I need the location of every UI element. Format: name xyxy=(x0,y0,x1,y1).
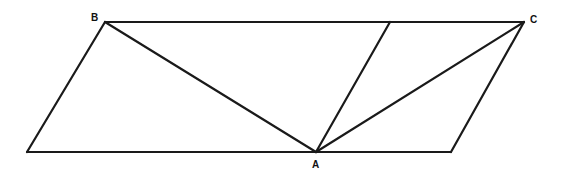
geometry-diagram: B C A xyxy=(0,0,564,174)
label-a: A xyxy=(312,159,319,170)
segment-right-side xyxy=(451,22,524,152)
segment-left-side xyxy=(27,22,105,152)
diagram-edges xyxy=(27,22,524,152)
segment-ac xyxy=(316,22,524,152)
segment-a-top-point xyxy=(316,22,390,152)
label-c: C xyxy=(530,14,537,25)
segment-ba xyxy=(105,22,316,152)
vertex-labels: B C A xyxy=(91,12,537,170)
label-b: B xyxy=(91,12,98,23)
